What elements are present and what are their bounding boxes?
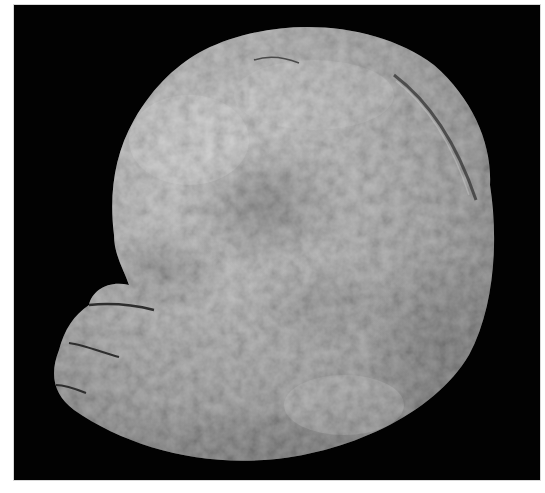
photo-frame	[14, 5, 540, 480]
specimen-photo	[14, 5, 540, 480]
